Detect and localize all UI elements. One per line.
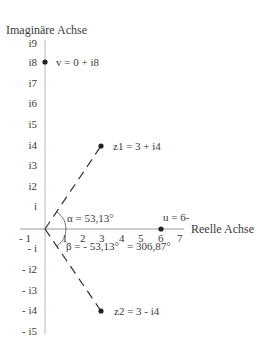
y-tick-label: i8 <box>7 56 37 68</box>
point-u <box>158 226 163 231</box>
alpha-annotation: α = 53,13° <box>67 212 114 224</box>
y-tick-label: i5 <box>7 118 37 130</box>
y-tick-label: - i5 <box>7 325 37 337</box>
point-label-u: u = 6- <box>163 211 189 223</box>
x-tick-label: 4 <box>119 232 125 244</box>
y-tick-label: i7 <box>7 77 37 89</box>
y-tick-label: i9 <box>7 37 37 49</box>
x-axis-title: Reelle Achse <box>191 223 254 235</box>
y-axis-title: Imaginäre Achse <box>6 24 87 36</box>
y-tick-label: - i4 <box>7 304 37 316</box>
point-label-z2: z2 = 3 - i4 <box>114 305 159 317</box>
y-tick-label: i6 <box>7 97 37 109</box>
alpha-arc <box>57 212 66 229</box>
y-tick-label: - i2 <box>7 263 37 275</box>
x-tick-label: - 1 <box>19 232 31 244</box>
y-tick-label: i3 <box>7 159 37 171</box>
x-tick-label: 7 <box>177 232 183 244</box>
point-z2 <box>98 308 103 313</box>
beta-annotation: β = - 53,13° <box>66 240 119 252</box>
point-z1 <box>98 143 103 148</box>
point-label-z1: z1 = 3 + i4 <box>113 140 161 152</box>
point-label-v: v = 0 + i8 <box>56 56 99 68</box>
y-tick-label: - i3 <box>7 284 37 296</box>
y-tick-label: i4 <box>7 139 37 151</box>
y-tick-label: i <box>7 200 37 212</box>
beta-alt-annotation: = 306,87° <box>127 240 171 252</box>
point-v <box>42 59 47 64</box>
y-tick-label: i2 <box>7 180 37 192</box>
